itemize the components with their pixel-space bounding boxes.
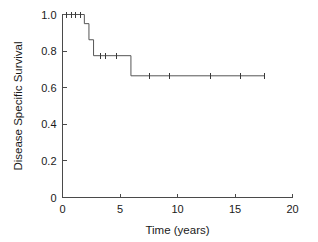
x-tick-label: 0 [59, 203, 65, 215]
y-tick-label: 0.8 [41, 45, 56, 57]
axis-spines [63, 14, 293, 198]
y-axis-title: Disease Specific Survival [12, 41, 24, 170]
x-tick-label: 15 [229, 203, 241, 215]
survival-curve-0 [63, 15, 265, 76]
survival-chart-figure: 0510152000.20.40.60.81.0Time (years)Dise… [0, 0, 318, 242]
kaplan-meier-plot: 0510152000.20.40.60.81.0Time (years)Dise… [0, 0, 318, 242]
x-axis: 05101520 [59, 194, 298, 215]
x-tick-label: 20 [286, 203, 298, 215]
x-tick-label: 5 [117, 203, 123, 215]
y-tick-label: 0.6 [41, 82, 56, 94]
x-axis-title: Time (years) [145, 224, 209, 236]
y-tick-label: 0.2 [41, 155, 56, 167]
x-tick-label: 10 [171, 203, 183, 215]
y-tick-label: 0 [50, 192, 56, 204]
y-tick-label: 1.0 [41, 9, 56, 21]
y-tick-label: 0.4 [41, 118, 56, 130]
censor-marks-0 [67, 12, 265, 79]
